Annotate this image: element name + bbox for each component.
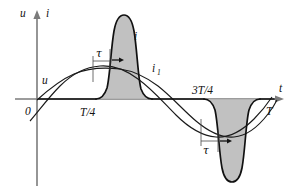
curve-label-i1-subscript: 1 [157, 68, 161, 77]
curve-label-u: u [42, 74, 48, 86]
origin-label: 0 [25, 105, 31, 117]
tick-label-3t-over-4: 3T/4 [191, 84, 213, 96]
y-axis-label-current: i [46, 7, 49, 19]
tau-upper-label: τ [96, 47, 102, 59]
tau-lower-label: τ [203, 144, 209, 156]
waveform-figure: u i t 0 T/4 3T/4 T u i i 1 τ τ [0, 0, 296, 186]
tick-label-t-over-4: T/4 [80, 106, 96, 118]
curve-label-i: i [134, 30, 137, 42]
y-axis-label-voltage: u [20, 7, 26, 19]
curve-label-i1-base: i [152, 62, 155, 74]
